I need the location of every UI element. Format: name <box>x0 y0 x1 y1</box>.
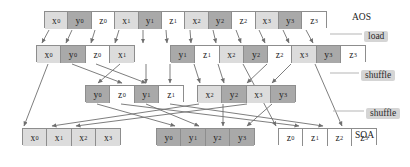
cell-x2: x2 <box>72 129 96 146</box>
cell-subscript: 3 <box>329 51 332 58</box>
cell-subscript: 0 <box>104 17 107 24</box>
cell-label: x <box>206 90 211 100</box>
cell-subscript: 2 <box>211 91 214 98</box>
cell-x0: x0 <box>23 129 47 146</box>
load-arrows <box>42 30 313 43</box>
cell-label: y <box>142 90 147 100</box>
cell-x3: x3 <box>292 46 316 63</box>
aos-row-group-0: x0y0z0x1y1z1x2y2z2x3y3z3 <box>44 11 327 28</box>
cell-x1: x1 <box>115 12 138 29</box>
cell-subscript: 3 <box>291 17 294 24</box>
aos-to-soa-diagram: x0y0z0x1y1z1x2y2z2x3y3z3x0y0z0x1y1z1x2y2… <box>0 0 410 167</box>
cell-subscript: 0 <box>74 51 77 58</box>
cell-y1: y1 <box>171 46 195 63</box>
cell-label: y <box>94 90 99 100</box>
shuffle-arrows-2 <box>52 104 323 126</box>
soa-row-group-1: y0y1y2y3 <box>156 128 255 145</box>
cell-y3: y3 <box>271 86 295 103</box>
cell-x2: x2 <box>198 86 222 103</box>
cell-y0: y0 <box>68 12 91 29</box>
cell-subscript: 3 <box>268 17 271 24</box>
cell-label: x <box>227 50 232 60</box>
cell-subscript: 0 <box>170 134 173 141</box>
cell-y2: y2 <box>209 12 232 29</box>
cell-z1: z1 <box>159 86 183 103</box>
cell-x3: x3 <box>247 86 271 103</box>
cell-subscript: 1 <box>123 51 126 58</box>
cell-subscript: 0 <box>81 17 84 24</box>
cell-subscript: 3 <box>109 134 112 141</box>
register-row-1-group-2: z2x3y3z3 <box>267 45 366 62</box>
cell-x1: x1 <box>110 46 134 63</box>
cell-x2: x2 <box>220 46 244 63</box>
cell-subscript: 1 <box>184 51 187 58</box>
cell-subscript: 1 <box>172 91 175 98</box>
cell-label: y <box>286 16 291 26</box>
cell-label: y <box>252 50 257 60</box>
cell-subscript: 0 <box>291 134 294 141</box>
cell-z1: z1 <box>195 46 219 63</box>
cell-subscript: 1 <box>127 17 130 24</box>
cell-y1: y1 <box>181 129 205 146</box>
cell-z3: z3 <box>302 12 325 29</box>
cell-y2: y2 <box>244 46 268 63</box>
cell-x3: x3 <box>96 129 120 146</box>
cell-label: x <box>300 50 305 60</box>
cell-subscript: 3 <box>315 17 318 24</box>
cell-subscript: 3 <box>305 51 308 58</box>
cell-label: y <box>179 50 184 60</box>
register-row-1-group-1: y1z1x2y2 <box>170 45 269 62</box>
soa-row-group-0: x0x1x2x3 <box>22 128 121 145</box>
cell-subscript: 1 <box>151 17 154 24</box>
cell-y3: y3 <box>279 12 302 29</box>
cell-label: x <box>118 50 123 60</box>
cell-z2: z2 <box>328 129 352 146</box>
soa-label: SOA <box>355 130 374 140</box>
cell-subscript: 3 <box>284 91 287 98</box>
cell-z0: z0 <box>92 12 115 29</box>
cell-x3: x3 <box>256 12 279 29</box>
cell-z3: z3 <box>341 46 365 63</box>
cell-label: y <box>75 16 80 26</box>
cell-subscript: 0 <box>123 91 126 98</box>
cell-subscript: 2 <box>232 51 235 58</box>
cell-z0: z0 <box>110 86 134 103</box>
aos-label: AOS <box>352 12 371 22</box>
cell-y2: y2 <box>222 86 246 103</box>
cell-subscript: 0 <box>99 91 102 98</box>
cell-y2: y2 <box>206 129 230 146</box>
cell-label: y <box>189 133 194 143</box>
cell-subscript: 2 <box>84 134 87 141</box>
cell-subscript: 1 <box>194 134 197 141</box>
cell-y1: y1 <box>139 12 162 29</box>
cell-label: y <box>238 133 243 143</box>
cell-subscript: 3 <box>243 134 246 141</box>
cell-subscript: 2 <box>244 17 247 24</box>
cell-label: x <box>55 133 60 143</box>
cell-x0: x0 <box>45 12 68 29</box>
cell-subscript: 0 <box>50 51 53 58</box>
cell-label: y <box>216 16 221 26</box>
cell-label: y <box>213 133 218 143</box>
cell-subscript: 0 <box>57 17 60 24</box>
cell-label: x <box>192 16 197 26</box>
cell-z1: z1 <box>303 129 327 146</box>
cell-subscript: 1 <box>316 134 319 141</box>
cell-x0: x0 <box>37 46 61 63</box>
cell-y0: y0 <box>157 129 181 146</box>
cell-label: x <box>79 133 84 143</box>
cell-subscript: 1 <box>60 134 63 141</box>
cell-label: x <box>52 16 57 26</box>
shuffle-label-2: shuffle <box>366 108 400 119</box>
cell-z2: z2 <box>268 46 292 63</box>
cell-x2: x2 <box>185 12 208 29</box>
cell-z0: z0 <box>279 129 303 146</box>
cell-label: x <box>254 90 259 100</box>
cell-y0: y0 <box>86 86 110 103</box>
cell-subscript: 1 <box>174 17 177 24</box>
cell-subscript: 2 <box>340 134 343 141</box>
cell-subscript: 1 <box>147 91 150 98</box>
cell-z0: z0 <box>86 46 110 63</box>
cell-z2: z2 <box>232 12 255 29</box>
cell-label: x <box>104 133 109 143</box>
